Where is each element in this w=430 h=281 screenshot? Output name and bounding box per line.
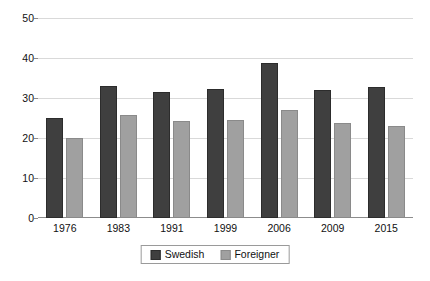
legend-label-swedish: Swedish bbox=[165, 249, 205, 260]
bar-group-1991 bbox=[145, 18, 199, 218]
legend-entry-foreigner[interactable]: Foreigner bbox=[220, 249, 279, 260]
y-tickmark-0 bbox=[34, 218, 38, 219]
x-tick-label-1976: 1976 bbox=[38, 222, 92, 234]
legend-swatch-swedish-icon bbox=[151, 250, 161, 260]
bar-foreigner-1991[interactable] bbox=[173, 121, 190, 218]
bar-group-2006 bbox=[252, 18, 306, 218]
bar-group-1999 bbox=[199, 18, 253, 218]
bar-swedish-1991[interactable] bbox=[153, 92, 170, 218]
bar-foreigner-1976[interactable] bbox=[66, 138, 83, 218]
x-tick-label-1999: 1999 bbox=[199, 222, 253, 234]
x-tick-label-1991: 1991 bbox=[145, 222, 199, 234]
bar-chart: 01020304050 1976198319911999200620092015… bbox=[0, 0, 430, 281]
legend-entry-swedish[interactable]: Swedish bbox=[151, 249, 205, 260]
bar-group-2009 bbox=[306, 18, 360, 218]
bar-swedish-1999[interactable] bbox=[207, 89, 224, 218]
legend-label-foreigner: Foreigner bbox=[234, 249, 279, 260]
bar-swedish-2006[interactable] bbox=[261, 63, 278, 218]
x-tick-label-2015: 2015 bbox=[359, 222, 413, 234]
bar-foreigner-2009[interactable] bbox=[334, 123, 351, 218]
bar-swedish-2015[interactable] bbox=[368, 87, 385, 218]
bar-foreigner-2006[interactable] bbox=[281, 110, 298, 218]
bar-foreigner-1983[interactable] bbox=[120, 115, 137, 218]
x-tick-label-2006: 2006 bbox=[252, 222, 306, 234]
bar-swedish-2009[interactable] bbox=[314, 90, 331, 218]
bar-group-2015 bbox=[359, 18, 413, 218]
bar-groups bbox=[38, 18, 413, 218]
bar-foreigner-1999[interactable] bbox=[227, 120, 244, 218]
bar-foreigner-2015[interactable] bbox=[388, 126, 405, 218]
x-tick-label-1983: 1983 bbox=[92, 222, 146, 234]
x-axis-labels: 1976198319911999200620092015 bbox=[38, 222, 413, 234]
y-axis-tickmarks bbox=[0, 18, 38, 218]
bar-group-1976 bbox=[38, 18, 92, 218]
bar-swedish-1976[interactable] bbox=[46, 118, 63, 218]
legend-swatch-foreigner-icon bbox=[220, 250, 230, 260]
bar-swedish-1983[interactable] bbox=[100, 86, 117, 218]
x-tick-label-2009: 2009 bbox=[306, 222, 360, 234]
bar-group-1983 bbox=[92, 18, 146, 218]
chart-legend: SwedishForeigner bbox=[141, 245, 290, 264]
